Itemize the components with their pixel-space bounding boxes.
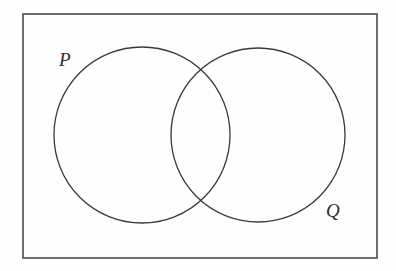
set-circle-q bbox=[171, 48, 345, 222]
venn-diagram-figure: P Q bbox=[0, 0, 396, 271]
venn-diagram-canvas bbox=[0, 0, 396, 271]
set-label-q: Q bbox=[326, 201, 340, 220]
set-circle-p bbox=[54, 47, 230, 223]
universal-set-rectangle bbox=[23, 14, 377, 258]
set-label-p: P bbox=[59, 50, 71, 69]
